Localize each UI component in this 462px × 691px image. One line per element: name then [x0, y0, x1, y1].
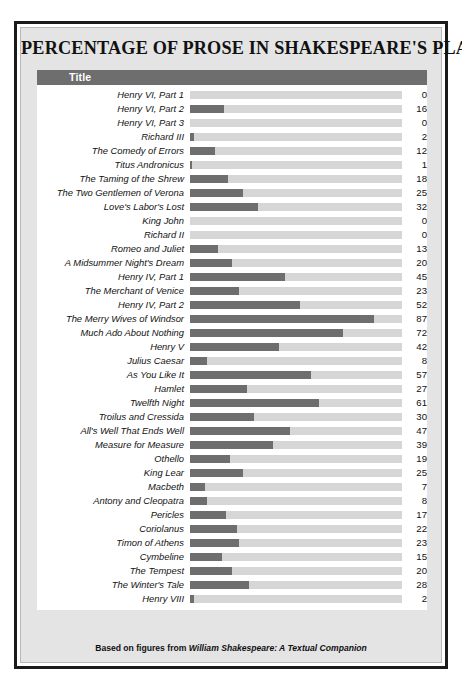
row-label: Love's Labor's Lost — [37, 202, 190, 211]
row-value: 23 — [402, 286, 427, 296]
row-bar-fill — [190, 441, 273, 449]
row-value: 57 — [402, 370, 427, 380]
source-title: William Shakespeare: A Textual Companion — [189, 643, 367, 653]
row-label: Cymbeline — [37, 552, 190, 561]
row-label: Richard II — [37, 230, 190, 239]
row-value: 25 — [402, 188, 427, 198]
row-bar-fill — [190, 203, 258, 211]
row-bar-fill — [190, 273, 285, 281]
row-value: 42 — [402, 342, 427, 352]
chart-row: Othello19 — [37, 452, 427, 466]
row-value: 45 — [402, 272, 427, 282]
row-value: 39 — [402, 440, 427, 450]
row-bar-fill — [190, 259, 232, 267]
row-bar-fill — [190, 385, 247, 393]
source-prefix: Based on figures from — [95, 643, 189, 653]
row-bar-track — [190, 441, 402, 449]
row-value: 47 — [402, 426, 427, 436]
chart-row: Henry V42 — [37, 340, 427, 354]
row-bar-fill — [190, 525, 237, 533]
row-value: 8 — [402, 496, 427, 506]
row-value: 8 — [402, 356, 427, 366]
row-label: As You Like It — [37, 370, 190, 379]
row-value: 15 — [402, 552, 427, 562]
chart-row: A Midsummer Night's Dream20 — [37, 256, 427, 270]
row-bar-track — [190, 525, 402, 533]
chart-row: Hamlet27 — [37, 382, 427, 396]
row-value: 20 — [402, 258, 427, 268]
row-bar-fill — [190, 497, 207, 505]
chart-row: Henry VI, Part 216 — [37, 102, 427, 116]
row-bar-track — [190, 357, 402, 365]
row-value: 7 — [402, 482, 427, 492]
row-value: 17 — [402, 510, 427, 520]
row-label: The Merry Wives of Windsor — [37, 314, 190, 323]
chart-row: Timon of Athens23 — [37, 536, 427, 550]
figure-panel: PERCENTAGE OF PROSE IN SHAKESPEARE'S PLA… — [20, 27, 442, 663]
chart-row: Coriolanus22 — [37, 522, 427, 536]
row-label: A Midsummer Night's Dream — [37, 258, 190, 267]
row-label: All's Well That Ends Well — [37, 426, 190, 435]
row-bar-track — [190, 399, 402, 407]
row-label: The Tempest — [37, 566, 190, 575]
chart-row: As You Like It57 — [37, 368, 427, 382]
row-bar-track — [190, 553, 402, 561]
chart-row: Cymbeline15 — [37, 550, 427, 564]
row-bar-fill — [190, 161, 192, 169]
row-label: King John — [37, 216, 190, 225]
row-label: Coriolanus — [37, 524, 190, 533]
row-label: Troilus and Cressida — [37, 412, 190, 421]
row-bar-fill — [190, 105, 224, 113]
chart-row: King John0 — [37, 214, 427, 228]
row-label: Henry VI, Part 1 — [37, 90, 190, 99]
row-bar-fill — [190, 553, 222, 561]
row-value: 0 — [402, 90, 427, 100]
row-label: Julius Caesar — [37, 356, 190, 365]
chart-row: Measure for Measure39 — [37, 438, 427, 452]
chart-row: Romeo and Juliet13 — [37, 242, 427, 256]
chart-row: The Taming of the Shrew18 — [37, 172, 427, 186]
row-bar-track — [190, 469, 402, 477]
chart-row: Henry VIII2 — [37, 592, 427, 606]
row-bar-fill — [190, 315, 374, 323]
chart-row: The Comedy of Errors12 — [37, 144, 427, 158]
row-bar-fill — [190, 469, 243, 477]
row-value: 2 — [402, 594, 427, 604]
row-bar-track — [190, 581, 402, 589]
row-bar-track — [190, 231, 402, 239]
row-bar-fill — [190, 371, 311, 379]
row-bar-track — [190, 189, 402, 197]
row-bar-fill — [190, 455, 230, 463]
row-label: Macbeth — [37, 482, 190, 491]
row-bar-track — [190, 511, 402, 519]
row-value: 30 — [402, 412, 427, 422]
row-bar-track — [190, 161, 402, 169]
row-bar-track — [190, 147, 402, 155]
row-bar-track — [190, 371, 402, 379]
row-bar-track — [190, 119, 402, 127]
column-header-title: Title — [37, 72, 91, 83]
row-label: The Merchant of Venice — [37, 286, 190, 295]
row-label: Henry VIII — [37, 594, 190, 603]
table-header-row: Title — [37, 70, 427, 85]
row-value: 27 — [402, 384, 427, 394]
row-bar-track — [190, 413, 402, 421]
row-value: 0 — [402, 216, 427, 226]
row-bar-fill — [190, 133, 194, 141]
row-label: Romeo and Juliet — [37, 244, 190, 253]
row-bar-track — [190, 91, 402, 99]
row-bar-track — [190, 455, 402, 463]
row-value: 1 — [402, 160, 427, 170]
row-bar-fill — [190, 413, 254, 421]
row-bar-track — [190, 133, 402, 141]
row-value: 28 — [402, 580, 427, 590]
row-label: Pericles — [37, 510, 190, 519]
chart-row: Julius Caesar8 — [37, 354, 427, 368]
row-value: 23 — [402, 538, 427, 548]
row-label: Timon of Athens — [37, 538, 190, 547]
row-label: King Lear — [37, 468, 190, 477]
row-label: Henry IV, Part 1 — [37, 272, 190, 281]
row-bar-track — [190, 497, 402, 505]
row-value: 13 — [402, 244, 427, 254]
row-bar-fill — [190, 175, 228, 183]
